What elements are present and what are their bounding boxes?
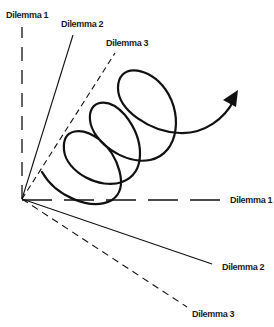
label-dilemma-3-right: Dilemma 3 bbox=[192, 309, 235, 319]
label-dilemma-1-right: Dilemma 1 bbox=[230, 195, 273, 205]
label-dilemma-1-top: Dilemma 1 bbox=[6, 10, 49, 20]
spiral-path bbox=[42, 70, 234, 204]
axis-dilemma-3-upper bbox=[22, 53, 115, 199]
axis-dilemma-2-upper bbox=[22, 35, 73, 199]
label-dilemma-3-top: Dilemma 3 bbox=[106, 38, 149, 48]
label-dilemma-2-top: Dilemma 2 bbox=[61, 19, 104, 29]
axis-dilemma-3-lower bbox=[22, 199, 187, 307]
dilemma-spiral-diagram: Dilemma 1 Dilemma 2 Dilemma 3 Dilemma 1 … bbox=[0, 0, 274, 327]
axis-dilemma-2-lower bbox=[22, 199, 212, 264]
label-dilemma-2-right: Dilemma 2 bbox=[222, 262, 265, 272]
